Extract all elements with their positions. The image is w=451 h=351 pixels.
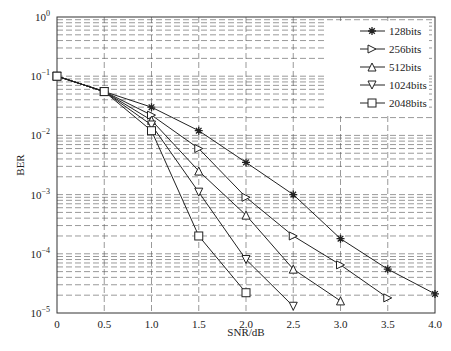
series-1024bits [53,72,297,310]
y-tick-label: 10−4 [30,246,50,260]
star-marker-icon [195,127,203,135]
legend-item: 2048bits [360,97,427,109]
square-marker-icon [242,289,250,297]
square-marker-icon [368,99,376,107]
triangle-up-marker-icon [337,297,345,305]
x-tick-label: 0.5 [97,318,111,330]
legend-label: 1024bits [389,79,427,91]
square-marker-icon [53,72,61,80]
y-axis-ticks: 10010−110−210−310−410−5 [30,9,50,319]
star-marker-icon [242,158,250,166]
x-tick-label: 4.0 [428,318,442,330]
legend-label: 2048bits [389,97,427,109]
square-marker-icon [148,127,156,135]
star-marker-icon [384,265,392,273]
y-axis-label: BER [14,154,26,176]
x-tick-label: 1.5 [192,318,206,330]
star-marker-icon [148,103,156,111]
y-tick-label: 10−1 [30,68,50,82]
y-tick-label: 10−3 [30,187,50,201]
ber-vs-snr-chart: 10010−110−210−310−410−5 00.51.01.52.02.5… [0,0,451,351]
x-tick-label: 2.5 [286,318,300,330]
legend: 128bits256bits512bits1024bits2048bits [324,21,429,116]
y-tick-label: 100 [35,9,50,23]
x-tick-label: 1.0 [145,318,159,330]
legend-label: 256bits [389,43,421,55]
triangle-down-marker-icon [195,188,203,196]
triangle-down-marker-icon [289,302,297,310]
square-marker-icon [195,232,203,240]
x-tick-label: 3.5 [381,318,395,330]
x-tick-label: 3.0 [334,318,348,330]
star-marker-icon [368,27,376,35]
y-tick-label: 10−5 [30,305,50,319]
star-marker-icon [431,290,439,298]
legend-label: 512bits [389,61,421,73]
x-axis-label: SNR/dB [227,326,264,338]
legend-label: 128bits [389,25,421,37]
y-tick-label: 10−2 [30,127,50,141]
x-tick-label: 0 [54,318,60,330]
square-marker-icon [100,88,108,96]
star-marker-icon [337,235,345,243]
